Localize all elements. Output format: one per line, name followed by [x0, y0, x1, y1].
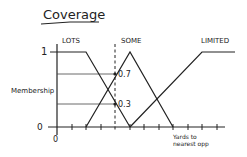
x-axis-label-line1: Yards to: [172, 133, 197, 140]
point-0.3: [113, 102, 116, 105]
series-limited: [130, 52, 235, 127]
series-some: [86, 52, 173, 127]
x-axis-label-line2: nearest opp: [173, 140, 209, 148]
y-axis-label: Membership: [11, 87, 55, 95]
series-lots: [57, 52, 130, 127]
point-0.7: [113, 72, 116, 75]
x-origin-label: 0: [53, 135, 58, 144]
fuzzy-membership-chart: Coverage 0.7 0.3 LOTS SOME LIMITED 1 0 0…: [0, 0, 247, 157]
label-0.3: 0.3: [118, 100, 131, 109]
y-tick-label-0: 0: [37, 122, 43, 132]
label-lots: LOTS: [62, 37, 80, 45]
label-limited: LIMITED: [201, 37, 229, 45]
label-0.7: 0.7: [118, 70, 131, 79]
label-some: SOME: [121, 37, 141, 45]
y-tick-label-1: 1: [41, 46, 47, 57]
chart-title: Coverage: [43, 7, 105, 22]
title-underline: [41, 22, 99, 24]
